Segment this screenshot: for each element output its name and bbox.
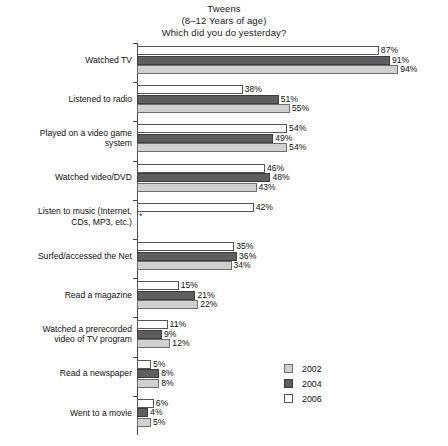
bar-value-label: 9%: [162, 329, 176, 339]
bar: [137, 418, 151, 427]
bar: [137, 183, 257, 192]
legend-item-2002: 2002: [284, 361, 322, 376]
bar: [137, 134, 273, 143]
bar-value-label: 54%: [287, 123, 306, 133]
no-data-asterisk: *: [139, 213, 143, 219]
bar-value-label: 55%: [290, 103, 309, 113]
bar-value-label: 91%: [390, 55, 409, 65]
axis-tick: [133, 396, 137, 397]
bar-value-label: 11%: [168, 319, 187, 329]
legend-item-2006: 2006: [284, 391, 322, 406]
bar-value-label: 94%: [398, 64, 417, 74]
bar-value-label: 5%: [151, 359, 165, 369]
bar: [137, 46, 379, 55]
axis-tick: [133, 43, 137, 44]
bar: [137, 252, 237, 261]
category-label: Listen to music (Internet, CDs, MP3, etc…: [4, 206, 132, 227]
bar: [137, 300, 198, 309]
bar: [137, 339, 170, 348]
bar-value-label: 22%: [198, 299, 217, 309]
bar-value-label: 21%: [195, 290, 214, 300]
bar: [137, 104, 290, 113]
category-label: Played on a video game system: [4, 128, 132, 149]
bar: [137, 56, 390, 65]
bar: [137, 379, 159, 388]
chart-subtitle: (8–12 Years of age): [0, 15, 448, 27]
category-label: Watched video/DVD: [4, 172, 132, 183]
bar-value-label: 5%: [151, 417, 165, 427]
category-label: Watched TV: [4, 55, 132, 66]
bar: [137, 360, 151, 369]
bar-value-label: 43%: [257, 182, 276, 192]
category-label: Went to a movie: [4, 408, 132, 419]
bar-value-label: 42%: [254, 202, 273, 212]
bar: [137, 408, 148, 417]
bar-value-label: 49%: [273, 133, 292, 143]
legend-item-2004: 2004: [284, 376, 322, 391]
legend-label-2002: 2002: [302, 364, 322, 374]
bar: [137, 173, 270, 182]
bar: [137, 65, 398, 74]
bar: [137, 261, 232, 270]
bar-value-label: 35%: [234, 241, 253, 251]
bar-value-label: 34%: [232, 260, 251, 270]
axis-tick: [133, 82, 137, 83]
axis-tick: [133, 317, 137, 318]
chart-title: Tweens: [0, 3, 448, 15]
bar: [137, 124, 287, 133]
bar-value-label: 36%: [237, 251, 256, 261]
bar-value-label: 6%: [154, 398, 168, 408]
axis-tick: [133, 161, 137, 162]
bar-value-label: 46%: [265, 163, 284, 173]
legend-label-2006: 2006: [302, 394, 322, 404]
bar: [137, 95, 279, 104]
bar: [137, 85, 243, 94]
category-label: Read a newspaper: [4, 368, 132, 379]
bar: [137, 242, 234, 251]
bar-value-label: 8%: [159, 368, 173, 378]
legend-swatch-icon-2006: [284, 394, 293, 403]
bar: [137, 330, 162, 339]
bar-value-label: 15%: [179, 280, 198, 290]
bar: [137, 143, 287, 152]
category-label: Read a magazine: [4, 290, 132, 301]
axis-tick: [133, 357, 137, 358]
bar-value-label: 8%: [159, 378, 173, 388]
bar-value-label: 54%: [287, 142, 306, 152]
bar: [137, 164, 265, 173]
axis-tick: [133, 239, 137, 240]
category-label: Listened to radio: [4, 94, 132, 105]
axis-tick: [133, 121, 137, 122]
bar-value-label: 48%: [270, 172, 289, 182]
legend-label-2004: 2004: [302, 379, 322, 389]
chart-question: Which did you do yesterday?: [0, 27, 448, 39]
axis-tick: [133, 200, 137, 201]
bar-value-label: 12%: [170, 338, 189, 348]
bar-value-label: 4%: [148, 407, 162, 417]
category-label: Watched a prerecorded video of TV progra…: [4, 324, 132, 345]
category-label: Surfed/accessed the Net: [4, 251, 132, 262]
legend-swatch-icon-2002: [284, 364, 293, 373]
chart-legend: 2002 2004 2006: [284, 361, 322, 406]
chart-title-block: Tweens (8–12 Years of age) Which did you…: [0, 3, 448, 39]
bar: [137, 281, 179, 290]
bar-value-label: 51%: [279, 94, 298, 104]
bar: [137, 369, 159, 378]
bar: [137, 203, 254, 212]
bar-value-label: 87%: [379, 45, 398, 55]
bar: [137, 291, 195, 300]
bar-value-label: 38%: [243, 84, 262, 94]
chart-container: Tweens (8–12 Years of age) Which did you…: [0, 0, 448, 446]
axis-tick: [133, 278, 137, 279]
legend-swatch-icon-2004: [284, 379, 293, 388]
